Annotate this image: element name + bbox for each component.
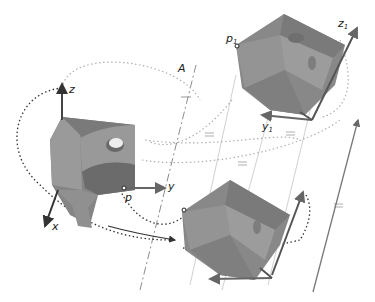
block-rotated bbox=[182, 180, 290, 280]
point-p bbox=[122, 186, 126, 190]
y1-label: y1 bbox=[261, 120, 273, 134]
z-label: z bbox=[68, 83, 75, 96]
p-label: p bbox=[124, 191, 132, 204]
block-initial bbox=[50, 117, 135, 228]
y-label: y bbox=[167, 180, 175, 193]
z1-label: z1 bbox=[337, 17, 348, 31]
screw-axis-A bbox=[140, 65, 196, 290]
p1-label: p1 bbox=[225, 32, 237, 46]
block-final bbox=[236, 14, 345, 115]
x-label: x bbox=[51, 220, 59, 233]
point-p-rotated bbox=[182, 208, 186, 212]
translation-arrow bbox=[313, 120, 358, 292]
rotated-y-axis-arrow bbox=[210, 278, 272, 279]
rotated-x-axis-stub bbox=[260, 268, 272, 278]
screw-motion-diagram: A z x bbox=[0, 0, 375, 302]
axis-A-label: A bbox=[177, 62, 186, 75]
